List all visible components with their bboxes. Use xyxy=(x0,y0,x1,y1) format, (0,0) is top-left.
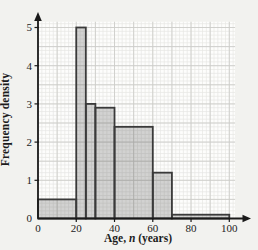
x-axis-title: Age, n (years) xyxy=(38,232,238,244)
y-tick-label: 5 xyxy=(27,21,33,33)
y-tick-label: 4 xyxy=(27,60,33,72)
y-axis-title: Frequency density xyxy=(0,45,14,195)
histogram-bar-30-40 xyxy=(95,108,114,219)
histogram-bar-25-30 xyxy=(86,104,96,219)
histogram-bar-40-60 xyxy=(115,127,153,219)
x-axis-arrow-icon xyxy=(243,215,252,223)
y-axis-arrow-icon xyxy=(34,12,42,21)
histogram-figure: 012345020406080100 Frequency density Age… xyxy=(0,0,258,250)
histogram-svg: 012345020406080100 xyxy=(0,0,258,250)
histogram-bar-0-20 xyxy=(38,199,76,218)
x-axis-title-prefix: Age, xyxy=(104,232,129,244)
histogram-bar-60-70 xyxy=(153,173,172,219)
histogram-bar-20-25 xyxy=(76,28,86,219)
y-tick-label: 0 xyxy=(27,212,33,224)
y-tick-label: 3 xyxy=(27,98,33,110)
y-tick-label: 1 xyxy=(27,174,33,186)
x-axis-title-suffix: (years) xyxy=(135,232,172,244)
y-tick-label: 2 xyxy=(27,136,33,148)
